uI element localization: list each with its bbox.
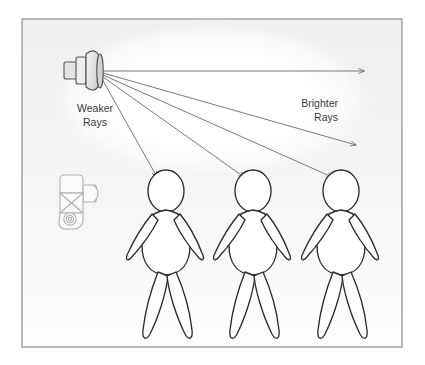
diagram-root: Weaker Rays Brighter Rays (0, 0, 425, 365)
figure-head (323, 170, 359, 212)
figure-head (235, 170, 271, 212)
weaker-rays-line-2: Rays (83, 116, 107, 128)
camera-grip (60, 175, 83, 193)
brighter-rays-line-2: Rays (314, 111, 338, 123)
figure-head (148, 170, 184, 212)
light-mid-body (76, 57, 86, 84)
weaker-rays-line-1: Weaker (77, 102, 113, 114)
camera-dial-inner (68, 217, 71, 220)
light-rear-barrel (64, 62, 77, 79)
brighter-rays-line-1: Brighter (301, 97, 338, 109)
lighting-diagram: Weaker Rays Brighter Rays (0, 0, 425, 365)
light-front-face (97, 54, 103, 88)
